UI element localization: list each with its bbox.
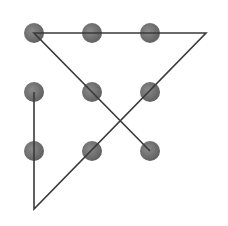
dot-r2c3 xyxy=(140,82,160,102)
connecting-line-path xyxy=(34,33,206,209)
diagram-svg xyxy=(0,0,228,226)
nine-dots-puzzle-diagram xyxy=(0,0,228,226)
dot-r3c2 xyxy=(82,141,102,161)
solution-path xyxy=(34,33,206,209)
